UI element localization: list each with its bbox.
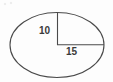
semi-major-axis-label: 15	[66, 47, 77, 57]
semi-minor-axis-label: 10	[39, 26, 50, 36]
ellipse-diagram-figure: 10 15	[0, 0, 113, 82]
ellipse-diagram-svg	[0, 0, 113, 82]
